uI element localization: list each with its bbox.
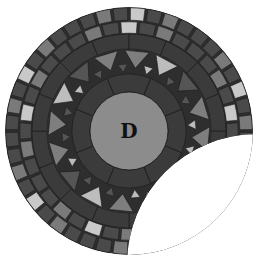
tile	[239, 115, 252, 130]
tile	[155, 220, 174, 236]
tile	[96, 9, 112, 24]
tile	[186, 201, 205, 220]
tile	[7, 98, 22, 114]
tile	[102, 226, 119, 240]
tile	[199, 188, 218, 207]
outer-band-segment	[187, 162, 219, 199]
tile	[236, 148, 251, 164]
tile	[139, 226, 156, 240]
tile	[121, 229, 137, 241]
tile	[190, 216, 209, 234]
tile	[6, 132, 19, 147]
tile	[102, 22, 119, 36]
tile	[113, 241, 128, 254]
tile	[20, 141, 34, 158]
tile	[218, 157, 234, 176]
small-triangle	[156, 183, 164, 192]
tile	[7, 148, 22, 164]
tile	[214, 192, 232, 211]
tile	[203, 205, 222, 224]
tile	[171, 212, 190, 230]
mosaic-diagram: D	[0, 0, 259, 265]
tile	[224, 104, 238, 121]
tile	[236, 98, 251, 114]
tile	[227, 123, 239, 139]
tile	[130, 8, 145, 21]
tile	[6, 115, 19, 130]
tile	[130, 241, 145, 254]
tile	[224, 141, 238, 158]
tile	[161, 232, 178, 248]
big-triangle	[185, 158, 206, 180]
tile	[20, 123, 32, 139]
center-label-d: D	[120, 119, 137, 143]
big-triangle	[169, 180, 189, 201]
tile	[239, 132, 252, 147]
tile	[223, 178, 241, 196]
outer-band-segment	[160, 189, 197, 221]
small-triangle	[175, 169, 184, 178]
tile	[210, 173, 228, 192]
tile	[121, 22, 137, 34]
tile	[139, 22, 156, 36]
tile	[230, 163, 246, 180]
tile	[113, 8, 128, 21]
tile	[146, 238, 162, 253]
tile	[20, 104, 34, 121]
tile	[176, 225, 194, 243]
tile	[146, 9, 162, 24]
tile	[96, 238, 112, 253]
